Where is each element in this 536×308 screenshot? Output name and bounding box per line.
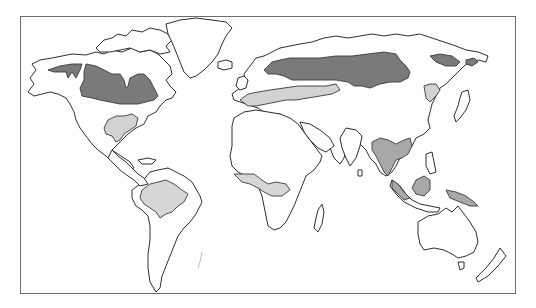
land-sri-lanka xyxy=(358,170,362,176)
land-arctic-islands xyxy=(96,28,172,54)
land-caribbean xyxy=(138,158,156,164)
land-madagascar xyxy=(314,204,324,232)
land-india xyxy=(340,128,362,166)
land-iceland xyxy=(218,60,232,70)
world-map xyxy=(0,0,536,308)
land-new-zealand xyxy=(476,248,506,282)
land-australia xyxy=(418,206,478,258)
land-japan xyxy=(454,90,470,122)
region-tropical-sumatra xyxy=(392,180,410,200)
land-philippines xyxy=(426,152,436,174)
region-tropical-borneo xyxy=(412,176,430,196)
region-tropical-new-guinea xyxy=(446,190,478,206)
land-tasmania xyxy=(458,262,464,270)
land-north-america xyxy=(28,48,176,170)
land-central-america xyxy=(108,150,148,186)
land-british-isles xyxy=(236,76,248,90)
mark-south-atlantic xyxy=(198,252,202,268)
